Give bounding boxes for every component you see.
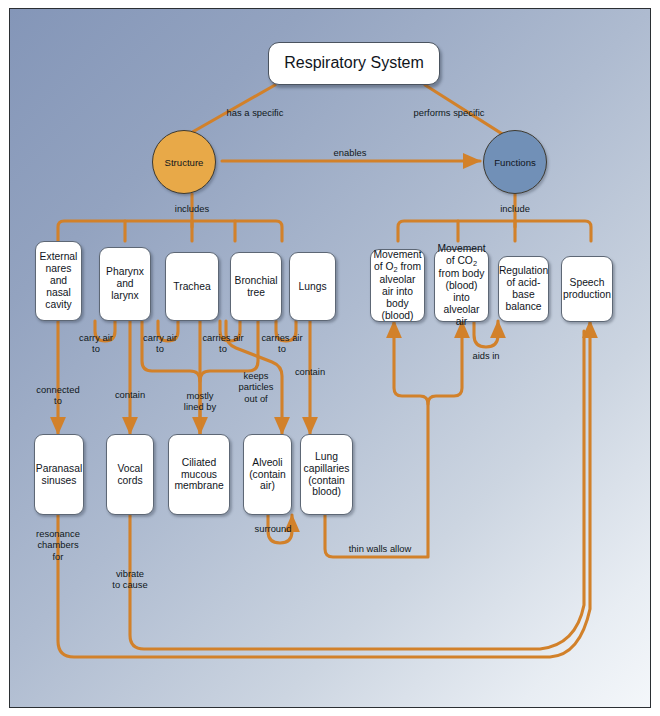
- node-label: Bronchial tree: [234, 275, 278, 299]
- edge-thin-walls-allow-co2: [428, 321, 462, 404]
- connector-layer: [10, 9, 652, 709]
- node-label: External nares and nasal cavity: [39, 251, 78, 311]
- node-label: Vocal cords: [110, 463, 150, 487]
- node-movement-of-co2[interactable]: Movement of CO2 from body (blood) into a…: [434, 249, 489, 322]
- node-functions[interactable]: Functions: [483, 130, 547, 194]
- edge-carry-air-to-1: [95, 321, 115, 341]
- node-regulation-acid-base-balance[interactable]: Regulation of acid-base balance: [498, 256, 549, 322]
- node-paranasal-sinuses[interactable]: Paranasal sinuses: [34, 434, 84, 515]
- node-label: Paranasal sinuses: [36, 463, 82, 487]
- node-respiratory-system[interactable]: Respiratory System: [268, 42, 440, 85]
- node-label: Lung capillaries (contain blood): [304, 451, 350, 499]
- node-bronchial-tree[interactable]: Bronchial tree: [230, 252, 282, 321]
- node-label: Trachea: [173, 281, 210, 293]
- node-speech-production[interactable]: Speech production: [561, 256, 613, 322]
- node-trachea[interactable]: Trachea: [165, 252, 219, 321]
- node-pharynx-larynx[interactable]: Pharynx and larynx: [99, 247, 151, 321]
- node-label: Regulation of acid-base balance: [499, 265, 548, 313]
- edge-mostly-lined-by-a: [142, 321, 200, 434]
- node-label: Functions: [494, 157, 536, 168]
- node-label: Speech production: [563, 277, 611, 301]
- diagram-canvas: Respiratory System Structure Functions E…: [9, 8, 651, 708]
- node-lungs[interactable]: Lungs: [289, 252, 336, 321]
- edge-carry-air-to-2: [158, 321, 178, 341]
- node-vocal-cords[interactable]: Vocal cords: [106, 434, 154, 515]
- edge-include-bus: [398, 221, 591, 241]
- node-label: Movement of CO2 from body (blood) into a…: [437, 243, 485, 328]
- edge-carries-air-to-2: [276, 321, 296, 341]
- node-external-nares-nasal-cavity[interactable]: External nares and nasal cavity: [35, 241, 82, 321]
- node-structure[interactable]: Structure: [152, 130, 216, 194]
- node-movement-of-o2[interactable]: Movement of O2 from alveolar air into bo…: [370, 249, 425, 322]
- node-lung-capillaries[interactable]: Lung capillaries (contain blood): [300, 434, 353, 515]
- edge-keeps-particles-out-of: [226, 321, 282, 434]
- node-label: Lungs: [298, 281, 326, 293]
- node-label: Respiratory System: [284, 54, 424, 73]
- node-label: Structure: [165, 157, 204, 168]
- concept-map-page: Respiratory System Structure Functions E…: [0, 0, 660, 716]
- node-label: Pharynx and larynx: [103, 266, 147, 302]
- node-ciliated-mucous-membrane[interactable]: Ciliated mucous membrane: [168, 434, 230, 515]
- edge-surround: [268, 515, 292, 543]
- edge-carries-air-to-1: [220, 321, 240, 341]
- node-label: Alveoli (contain air): [247, 457, 288, 493]
- node-alveoli[interactable]: Alveoli (contain air): [243, 434, 292, 515]
- edge-mostly-lined-by-c: [200, 321, 258, 381]
- edge-includes-bus: [58, 221, 282, 241]
- node-label: Ciliated mucous membrane: [172, 457, 226, 493]
- node-label: Movement of O2 from alveolar air into bo…: [373, 249, 421, 322]
